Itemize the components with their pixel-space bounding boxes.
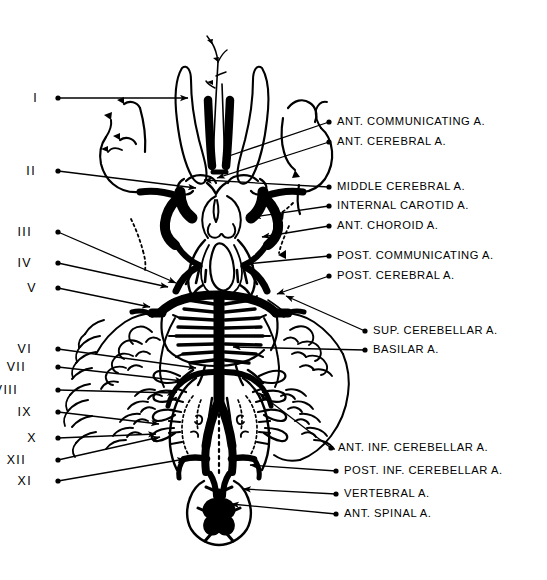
leader-dot-cn-12 [55, 457, 60, 462]
leader-dot-sup-cerebellar [362, 328, 367, 333]
carotid-siphon-right [267, 200, 278, 245]
cranial-nerve-label-cn-6: VI [17, 343, 32, 355]
infundibulum [214, 200, 219, 222]
anterior-spinal-artery-right-root [223, 474, 229, 496]
hypothalamic-outline-right [227, 196, 241, 238]
artery-label-ant-choroid: ANT. CHOROID A. [337, 220, 439, 231]
pericallosal-loop-left [124, 102, 140, 108]
mca-distal-left-2 [106, 120, 111, 137]
leader-dot-post-cerebral [326, 273, 331, 278]
leader-line-basilar [233, 347, 365, 350]
leader-line-post-cerebral [277, 276, 329, 294]
leader-dot-ant-inf-cerebellar [328, 445, 333, 450]
artery-label-post-communicating: POST. COMMUNICATING A. [337, 250, 494, 261]
left-peripheral-nerves [68, 320, 104, 443]
vertebral-artery-right [219, 400, 232, 446]
carotid-siphon-left [165, 200, 176, 245]
aca-spur-2 [213, 57, 219, 62]
leader-dot-middle-cerebral [326, 184, 331, 189]
leader-dot-cn-6 [55, 346, 60, 351]
leader-dot-cn-1 [55, 95, 60, 100]
leader-line-ant-choroid [262, 226, 329, 237]
artery-label-post-cerebral: POST. CEREBRAL A. [337, 270, 455, 281]
cranial-nerve-label-cn-1: I [33, 92, 38, 104]
cranial-nerve-label-cn-9: IX [17, 406, 32, 418]
leader-line-cn-2 [58, 171, 196, 188]
leader-dot-cn-8 [55, 387, 60, 392]
aca-branch-tip-right [218, 50, 227, 62]
posterior-inferior-cerebellar-artery-left [184, 458, 207, 460]
leader-line-ant-cerebral [217, 142, 329, 178]
callosomarginal-left [120, 138, 136, 144]
artery-label-ant-spinal: ANT. SPINAL A. [344, 508, 432, 519]
leader-line-cn-4 [58, 263, 168, 287]
mca-distal-left [100, 137, 140, 192]
cerebellum-right-lower-folia [281, 389, 334, 449]
pericallosal-loop-right [288, 100, 316, 122]
optic-chiasm [207, 183, 226, 194]
leader-dot-ant-cerebral [326, 139, 331, 144]
mca-distal-right [303, 128, 332, 192]
spinal-cord-outline-upper-left [190, 481, 204, 498]
leader-dot-ant-spinal [333, 511, 338, 516]
leader-dot-cn-10 [55, 435, 60, 440]
spinal-horn-post-right [227, 534, 233, 541]
mca-distal-left-branch [108, 148, 122, 152]
cranial-nerve-label-cn-5: V [27, 282, 37, 294]
middle-cerebral-artery-left [140, 191, 178, 196]
pica-distal-right [254, 459, 259, 478]
callosomarginal-right [282, 118, 284, 152]
aica-distal-left [168, 384, 180, 406]
artery-label-basilar: BASILAR A. [373, 344, 439, 355]
leader-dot-cn-3 [55, 229, 60, 234]
cranial-nerve-label-cn-4: IV [17, 257, 32, 269]
artery-label-middle-cerebral: MIDDLE CEREBRAL A. [337, 181, 465, 192]
artery-label-sup-cerebellar: SUP. CEREBELLAR A. [373, 325, 498, 336]
callosomarginal-right-tip [292, 170, 300, 178]
aca-spur-3 [207, 39, 213, 44]
internal-carotid-artery-right [251, 192, 263, 218]
artery-label-ant-cerebral: ANT. CEREBRAL A. [337, 136, 446, 147]
leader-dot-cn-2 [55, 168, 60, 173]
anterior-cerebral-artery-left-trunk [208, 100, 212, 166]
leader-dot-vertebral [333, 491, 338, 496]
cranial-nerve-label-cn-8: VIII [0, 384, 18, 396]
cranial-nerve-label-cn-12: XII [7, 454, 26, 466]
artery-label-ant-communicating: ANT. COMMUNICATING A. [337, 116, 485, 127]
aca-branch-ascending-left [213, 62, 218, 166]
mammillary-body-left [208, 224, 221, 238]
artery-label-internal-carotid: INTERNAL CAROTID A. [337, 200, 469, 211]
cranial-nerve-label-cn-3: III [17, 226, 32, 238]
leader-line-cn-9 [58, 412, 159, 424]
olive-left [182, 396, 201, 457]
anatomical-figure: IIIIIIIVVVIVIIVIIIIXXXIIXI ANT. COMMUNIC… [0, 0, 547, 580]
brainstem-artery-illustration [0, 0, 547, 580]
leader-line-cn-5 [58, 288, 150, 307]
spinal-grey-matter [204, 499, 235, 534]
internal-carotid-artery-left [180, 192, 192, 218]
leader-dot-cn-5 [55, 285, 60, 290]
cranial-nerve-label-cn-7: VII [7, 361, 26, 373]
leader-dot-cn-9 [55, 409, 60, 414]
artery-label-vertebral: VERTEBRAL A. [344, 488, 430, 499]
leader-dot-internal-carotid [326, 203, 331, 208]
posterior-inferior-cerebellar-artery-right [231, 458, 254, 460]
interpeduncular-fossa [210, 243, 234, 290]
leader-dot-ant-communicating [326, 119, 331, 124]
leader-dot-cn-7 [55, 364, 60, 369]
mammillary-body-right [222, 224, 235, 238]
olive-right [238, 396, 257, 457]
leader-dot-ant-choroid [326, 223, 331, 228]
cranial-nerve-label-cn-2: II [26, 165, 36, 177]
artery-label-ant-inf-cerebellar: ANT. INF. CEREBELLAR A. [338, 442, 488, 453]
leader-dot-post-inf-cerebellar [333, 468, 338, 473]
leader-line-ant-communicating [223, 122, 329, 158]
mca-distal-left-tip [104, 112, 112, 120]
leader-line-cn-11 [58, 459, 185, 481]
leader-line-cn-6 [58, 349, 196, 368]
cerebellum-right-inferior-margin [274, 455, 300, 461]
leader-dot-cn-4 [55, 260, 60, 265]
optic-nerve-left [186, 175, 216, 183]
spinal-horn-post-left [205, 534, 211, 541]
olfactory-tract-left [176, 67, 207, 184]
